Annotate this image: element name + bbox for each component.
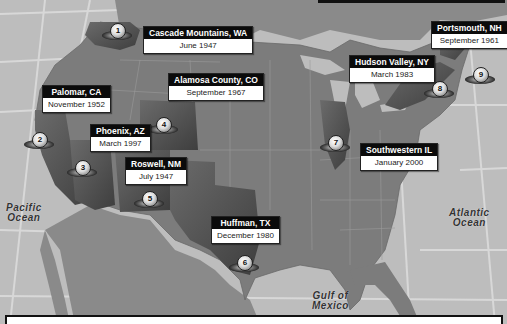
marker-number: 3 [75,160,91,176]
callout-date: March 1983 [350,68,434,82]
marker-number: 6 [237,255,253,271]
callout-hudson-valley: Hudson Valley, NY March 1983 [349,55,435,83]
callout-huffman: Huffman, TX December 1980 [211,216,280,244]
marker-number: 9 [473,67,489,83]
callout-cascade-mountains: Cascade Mountains, WA June 1947 [143,26,253,54]
callout-title: Huffman, TX [212,217,279,229]
marker-number: 5 [142,191,158,207]
callout-roswell: Roswell, NM July 1947 [125,157,187,185]
ocean-label-line: Ocean [6,213,42,223]
marker-number: 8 [432,81,448,97]
sighting-marker-3[interactable]: 3 [67,163,97,177]
callout-phoenix: Phoenix, AZ March 1997 [90,124,151,152]
callout-title: Roswell, NM [126,158,186,170]
callout-title: Palomar, CA [43,86,110,98]
ocean-label-gulf: Gulf of Mexico [312,291,349,311]
frame-edge [318,0,505,3]
sighting-marker-2[interactable]: 2 [24,135,54,149]
sighting-marker-9[interactable]: 9 [465,70,495,84]
callout-title: Portsmouth, NH [432,22,507,34]
marker-number: 1 [110,23,126,39]
ocean-label-line: Mexico [312,301,349,311]
callout-date: November 1952 [43,98,110,112]
callout-date: July 1947 [126,170,186,184]
callout-title: Alamosa County, CO [169,74,263,86]
ocean-label-atlantic: Atlantic Ocean [449,208,490,228]
callout-alamosa-county: Alamosa County, CO September 1967 [168,73,264,101]
callout-title: Phoenix, AZ [91,125,150,137]
callout-date: September 1967 [169,86,263,100]
ocean-label-line: Ocean [449,218,490,228]
sighting-marker-4[interactable]: 4 [148,120,178,134]
marker-number: 4 [156,117,172,133]
callout-title: Southwestern IL [361,144,437,156]
callout-title: Hudson Valley, NY [350,56,434,68]
callout-date: September 1961 [432,34,507,48]
sighting-marker-7[interactable]: 7 [320,138,350,152]
caption-box [5,315,503,324]
ufo-sightings-map: Pacific Ocean Atlantic Ocean Gulf of Mex… [0,0,507,324]
sighting-marker-8[interactable]: 8 [424,84,454,98]
callout-date: December 1980 [212,229,279,243]
callout-date: March 1997 [91,137,150,151]
callout-palomar: Palomar, CA November 1952 [42,85,111,113]
sighting-marker-5[interactable]: 5 [134,194,164,208]
marker-number: 2 [32,132,48,148]
callout-southwestern-il: Southwestern IL January 2000 [360,143,438,171]
callout-portsmouth: Portsmouth, NH September 1961 [431,21,507,49]
sighting-marker-1[interactable]: 1 [102,26,132,40]
sighting-marker-6[interactable]: 6 [229,258,259,272]
marker-number: 7 [328,135,344,151]
callout-date: January 2000 [361,156,437,170]
callout-date: June 1947 [144,39,252,53]
ocean-label-pacific: Pacific Ocean [6,203,42,223]
callout-title: Cascade Mountains, WA [144,27,252,39]
